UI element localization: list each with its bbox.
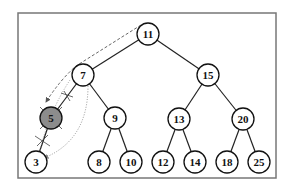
node-label: 5 [48,112,54,124]
node-label: 3 [33,156,39,168]
tree-node-11: 11 [137,23,159,45]
node-label: 10 [126,156,138,168]
tree-node-14: 14 [184,151,206,173]
node-label: 25 [254,156,266,168]
tree-node-8: 8 [88,151,110,173]
annotations [35,25,141,158]
node-label: 13 [174,113,186,125]
tree-node-13: 13 [168,108,190,130]
node-label: 8 [96,156,102,168]
node-label: 12 [158,156,170,168]
node-label: 11 [143,28,153,40]
tree-node-7: 7 [72,64,94,86]
tree-node-15: 15 [197,64,219,86]
tree-node-12: 12 [152,151,174,173]
node-label: 15 [203,69,215,81]
tree-node-20: 20 [232,108,254,130]
node-label: 7 [80,69,86,81]
tree-diagram: 11715591320381012141825 [0,0,291,190]
node-label: 9 [112,112,118,124]
tree-edges [36,34,259,162]
node-label: 14 [190,156,202,168]
tree-node-25: 25 [248,151,270,173]
tree-node-10: 10 [120,151,142,173]
tree-node-9: 9 [104,107,126,129]
cross-mark-edge-7-5 [61,91,73,101]
node-label: 18 [222,156,234,168]
tree-node-3: 3 [25,151,47,173]
tree-node-18: 18 [216,151,238,173]
node-label: 20 [238,113,250,125]
tree-nodes: 11715591320381012141825 [25,23,270,173]
tree-node-5: 5 [40,107,62,129]
search-path-dashed-arrow [46,25,141,102]
